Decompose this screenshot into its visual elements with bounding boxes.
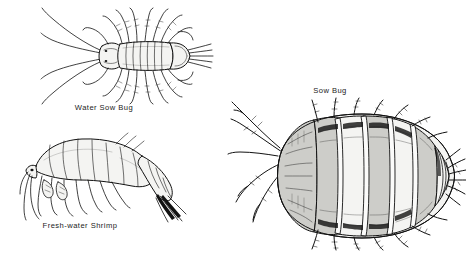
thorax-segment-group [314, 116, 437, 236]
uropod-hatching [455, 164, 460, 191]
head [26, 165, 37, 178]
water-sow-bug-drawing [28, 6, 214, 106]
caption-sow-bug: Sow Bug [286, 86, 374, 95]
gnathopod-group [42, 180, 67, 200]
illustration-plate: Water Sow Bug [0, 0, 466, 258]
antenna-group [41, 8, 101, 104]
thorax [118, 41, 173, 70]
caption-fresh-water-shrimp: Fresh-water Shrimp [16, 221, 144, 230]
figure-fresh-water-shrimp [20, 130, 192, 222]
fresh-water-shrimp-drawing [20, 130, 192, 222]
telson [170, 43, 190, 69]
uropod-group [188, 44, 213, 68]
leg-group-lower [83, 68, 192, 104]
antenna-group [20, 172, 39, 220]
body [35, 139, 154, 187]
figure-water-sow-bug [28, 6, 214, 106]
sow-bug-drawing [222, 98, 466, 250]
front-appendage-group [228, 102, 282, 222]
head-shield [278, 120, 318, 232]
leg-group-upper [83, 8, 192, 44]
figure-sow-bug [222, 98, 466, 250]
caption-water-sow-bug: Water Sow Bug [40, 103, 168, 112]
eye [30, 169, 33, 172]
